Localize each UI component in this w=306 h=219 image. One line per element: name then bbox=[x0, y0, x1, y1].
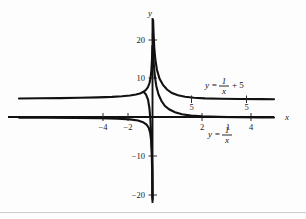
y-tick-label--20: −20 bbox=[132, 190, 145, 200]
equation-label-one-over-x-plus-5: y = 1 x + 5 bbox=[204, 76, 244, 96]
eq1-prefix: y = bbox=[204, 80, 217, 90]
eq1-numerator: 1 bbox=[222, 76, 227, 86]
x-tick-label--4: −4 bbox=[98, 122, 108, 132]
y-tick-label--10: −10 bbox=[132, 151, 145, 161]
coordinate-plane: y x 20 10 −10 −20 −4 −2 2 4 1 5 5 y = 1 … bbox=[0, 0, 306, 219]
x-tick-label--2: −2 bbox=[123, 122, 132, 132]
graph-figure: y x 20 10 −10 −20 −4 −2 2 4 1 5 5 y = 1 … bbox=[0, 0, 306, 219]
y-tick-label-20: 20 bbox=[137, 35, 146, 45]
asymptote-label-left: 5 bbox=[189, 102, 193, 112]
eq2-numerator: 1 bbox=[225, 125, 230, 135]
x-axis-label: x bbox=[284, 112, 289, 122]
asymptote-label-right: 5 bbox=[244, 102, 248, 112]
curve-one-over-x-plus-5-left bbox=[19, 46, 152, 99]
x-tick-label-4: 4 bbox=[249, 122, 254, 132]
x-tick-label-2: 2 bbox=[200, 122, 204, 132]
y-axis-label: y bbox=[147, 8, 152, 18]
curve-one-over-x-right bbox=[153, 34, 274, 118]
eq1-denominator: x bbox=[221, 86, 226, 96]
y-tick-label-10: 10 bbox=[137, 73, 146, 83]
equation-label-one-over-x: y = 1 x bbox=[207, 125, 232, 145]
eq1-suffix: + 5 bbox=[232, 80, 244, 90]
eq2-prefix: y = bbox=[207, 129, 220, 139]
eq2-denominator: x bbox=[224, 135, 229, 145]
bottom-divider bbox=[0, 212, 306, 213]
